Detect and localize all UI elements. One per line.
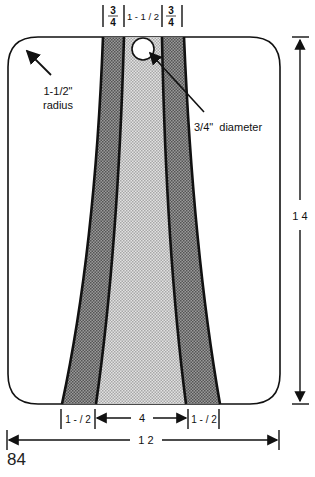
bottom-center-width: 4	[139, 412, 145, 424]
bottom-left-width: 1 - / 2	[65, 414, 91, 425]
top-center-width: 1 - 1 / 2	[127, 11, 159, 22]
hole-circle	[132, 38, 154, 60]
top-dimensions: 3 4 1 - 1 / 2 3 4	[103, 5, 182, 28]
height-label: 1 4	[292, 210, 307, 222]
overall-width-dimension: 1 2	[7, 430, 279, 450]
hole-callout-label: 3/4" diameter	[194, 121, 262, 133]
radius-callout-arrow	[27, 51, 51, 75]
top-right-frac-den: 4	[168, 17, 174, 28]
bottom-right-width: 1 - / 2	[191, 414, 217, 425]
height-dimension: 1 4	[292, 37, 309, 404]
pattern-diagram: 3/4" diameter 1-1/2" radius 3 4 1 - 1 / …	[0, 0, 315, 477]
top-left-frac-den: 4	[110, 17, 116, 28]
page-number: 84	[7, 450, 26, 470]
overall-width-label: 1 2	[138, 434, 153, 446]
bottom-stripe-dimensions: 1 - / 2 4 1 - / 2	[61, 409, 219, 429]
top-right-frac-num: 3	[168, 5, 174, 16]
radius-callout-line1: 1-1/2"	[44, 85, 73, 97]
top-left-frac-num: 3	[110, 5, 116, 16]
radius-callout-line2: radius	[43, 99, 73, 111]
